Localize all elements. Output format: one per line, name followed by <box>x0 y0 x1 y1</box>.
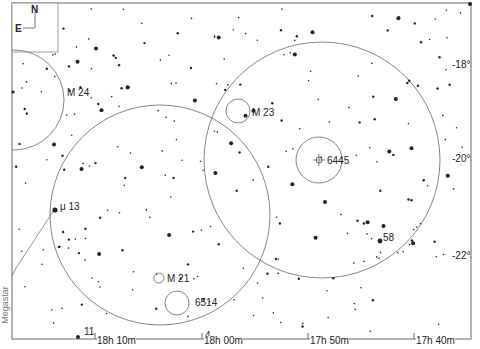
field-circles <box>0 42 440 325</box>
object-label: 6445 <box>327 156 349 166</box>
field-circle <box>226 99 250 123</box>
axis-label: 17h 40m <box>416 336 455 346</box>
field-circle <box>0 50 64 150</box>
star-chart <box>0 0 480 349</box>
object-label: 58 <box>383 233 394 243</box>
field-circle <box>154 273 164 283</box>
axis-label: 18h 00m <box>204 336 243 346</box>
east-label: E <box>15 24 22 34</box>
object-label: μ 13 <box>60 202 80 212</box>
axis-label: -22° <box>452 251 470 261</box>
object-label: M 21 <box>167 274 189 284</box>
north-label: N <box>31 5 38 15</box>
field-circle <box>165 291 189 315</box>
object-label: 6514 <box>195 298 217 308</box>
axis-label: -20° <box>452 154 470 164</box>
field-circle <box>50 105 270 325</box>
object-label: M 24 <box>67 88 89 98</box>
credit-label: Megastar <box>0 286 10 324</box>
object-label: M 23 <box>252 108 274 118</box>
axis-label: 18h 10m <box>97 336 136 346</box>
object-label: 11 <box>84 327 94 337</box>
axis-label: -18° <box>452 60 470 70</box>
axis-label: 17h 50m <box>310 336 349 346</box>
